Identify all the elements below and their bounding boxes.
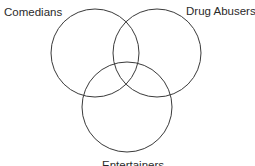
- label-comedians: Comedians: [4, 7, 62, 19]
- label-drug-abusers: Drug Abusers: [186, 6, 255, 18]
- label-entertainers: Entertainers: [102, 160, 164, 166]
- venn-diagram: [0, 0, 255, 166]
- circle-entertainers: [82, 62, 172, 152]
- circle-drug-abusers: [113, 9, 201, 97]
